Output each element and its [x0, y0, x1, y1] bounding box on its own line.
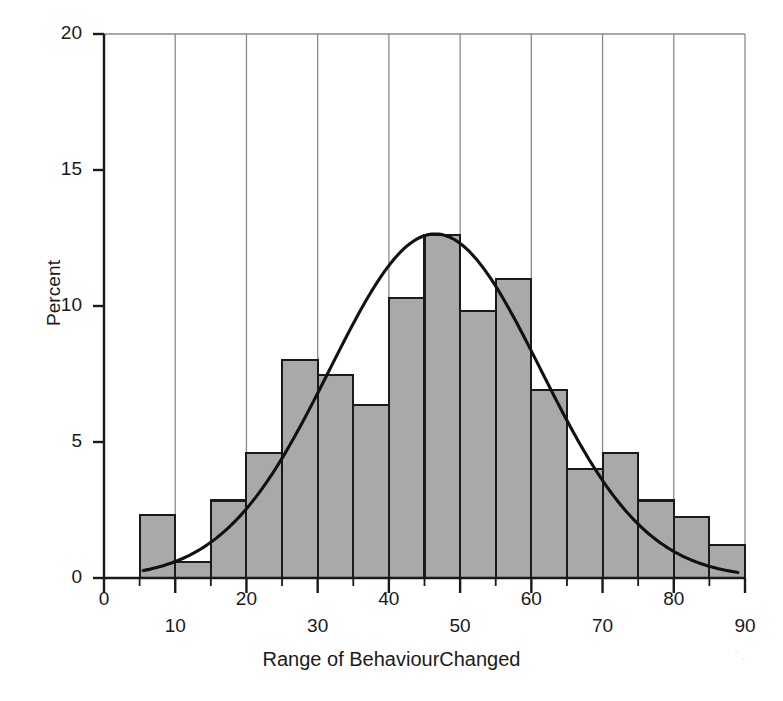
y-tick-label: 10: [36, 294, 82, 316]
histogram-bar: [567, 469, 603, 578]
histogram-bar: [353, 405, 389, 578]
x-tick-label: 20: [216, 588, 276, 610]
x-tick-label: 80: [644, 588, 704, 610]
histogram-bar: [709, 545, 745, 578]
x-tick-label: 60: [501, 588, 561, 610]
histogram-bar: [175, 562, 211, 578]
histogram-bar: [425, 235, 461, 578]
y-tick-group: [93, 34, 104, 578]
histogram-bar: [282, 360, 318, 578]
y-tick-label: 20: [36, 22, 82, 44]
histogram-bar: [603, 453, 639, 578]
histogram-bar: [674, 517, 710, 578]
histogram-bar: [496, 279, 532, 578]
histogram-bar: [246, 453, 282, 578]
x-tick-label: 10: [145, 615, 205, 637]
histogram-bar: [389, 298, 425, 578]
scan-artifact: ' ,: [735, 650, 745, 661]
y-tick-label: 15: [36, 158, 82, 180]
histogram-bar: [318, 375, 354, 578]
x-tick-label: 0: [74, 588, 134, 610]
x-tick-label: 90: [715, 615, 775, 637]
histogram-figure: Percent 05101520 0204060801030507090 Ran…: [0, 0, 783, 701]
x-tick-label: 40: [359, 588, 419, 610]
histogram-bar: [460, 311, 496, 578]
x-tick-label: 50: [430, 615, 490, 637]
x-tick-label: 30: [288, 615, 348, 637]
histogram-bar: [531, 390, 567, 578]
y-tick-label: 5: [36, 430, 82, 452]
x-axis-title: Range of BehaviourChanged: [0, 648, 783, 671]
x-tick-label: 70: [573, 615, 633, 637]
y-tick-label: 0: [36, 566, 82, 588]
